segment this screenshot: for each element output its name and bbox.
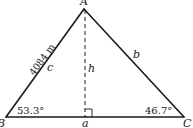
altitude-label-h: h	[88, 62, 95, 75]
right-angle-marker	[85, 109, 92, 117]
side-label-a: a	[82, 117, 89, 128]
side-b-line	[84, 9, 184, 117]
side-label-c: c	[47, 61, 53, 74]
side-label-b: b	[133, 48, 140, 61]
angle-c-value: 46.7°	[145, 105, 172, 116]
triangle-diagram: A B C a b c h 4084 m 53.3° 46.7°	[0, 0, 193, 128]
vertex-label-b: B	[0, 117, 5, 128]
vertex-label-c: C	[183, 117, 192, 128]
vertex-label-a: A	[79, 0, 88, 8]
angle-b-value: 53.3°	[17, 105, 44, 116]
